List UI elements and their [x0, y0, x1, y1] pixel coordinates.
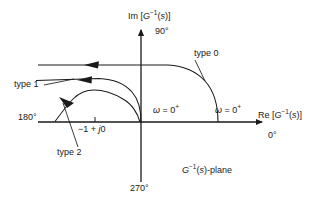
curve-type-2-arrowhead [59, 97, 74, 108]
plane-label: G−1(s)-plane [182, 166, 232, 175]
omega-label-right: ω = 0+ [215, 106, 241, 115]
curve-type-1-arrowhead [77, 76, 92, 83]
omega-label-left: ω = 0+ [153, 106, 179, 115]
curve-type-0-arrowhead [84, 61, 99, 68]
leader-type-2 [63, 103, 78, 147]
leader-type-0 [195, 60, 205, 81]
angle-label-180: 180° [18, 113, 37, 122]
curve-type-0 [38, 65, 218, 122]
curve-label-type-1: type 1 [14, 80, 39, 89]
angle-label-90: 90° [155, 27, 169, 36]
imaginary-axis-label: Im [G−1(s)] [128, 12, 170, 21]
curve-label-type-0: type 0 [194, 49, 219, 58]
inverse-polar-plot-figure: Im [G−1(s)] 90° Re [G−1(s)] 0° 180° 270°… [0, 0, 325, 206]
curve-label-type-2: type 2 [57, 148, 82, 157]
angle-label-270: 270° [130, 184, 149, 193]
critical-point-label: −1 + j0 [78, 125, 106, 134]
real-axis-label: Re [G−1(s)] [258, 111, 302, 120]
angle-label-0: 0° [268, 131, 277, 140]
